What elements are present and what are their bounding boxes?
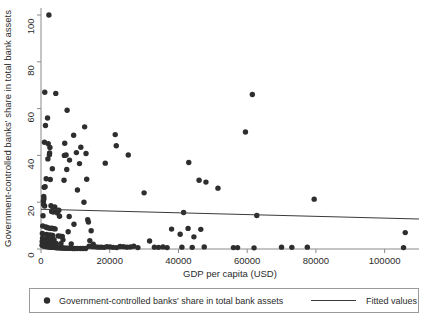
scatter-point [177, 232, 182, 237]
scatter-point [250, 92, 255, 97]
x-tick-label: 60000 [234, 255, 260, 266]
y-tick-label: 20 [25, 206, 36, 217]
scatter-point [61, 178, 66, 183]
scatter-point [66, 214, 71, 219]
scatter-point [185, 226, 190, 231]
scatter-point [103, 160, 108, 165]
scatter-point [403, 230, 408, 235]
x-tick-label: 0 [38, 255, 43, 266]
scatter-point [289, 245, 294, 250]
scatter-point [78, 145, 83, 150]
scatter-point [196, 178, 201, 183]
scatter-point [147, 238, 152, 243]
scatter-point [84, 177, 89, 182]
scatter-point [77, 161, 82, 166]
x-tick-label: 100000 [369, 255, 401, 266]
scatter-point [75, 187, 80, 192]
scatter-point [48, 177, 53, 182]
scatter-point [126, 152, 131, 157]
scatter-point [279, 244, 284, 249]
scatter-point [50, 166, 55, 171]
scatter-point [47, 145, 52, 150]
scatter-point [179, 244, 184, 249]
scatter-point [164, 245, 169, 250]
scatter-point [65, 229, 70, 234]
scatter-point [311, 196, 316, 201]
scatter-point [40, 213, 45, 218]
scatter-point [74, 150, 79, 155]
y-tick-label: 100 [25, 18, 36, 34]
legend-label-fitted: Fitted values [366, 296, 418, 306]
scatter-point [64, 167, 69, 172]
x-tick-label: 40000 [165, 255, 191, 266]
scatter-point [114, 143, 119, 148]
scatter-point [135, 245, 140, 250]
scatter-points-group [39, 12, 408, 251]
scatter-chart: 020406080100 020000400006000080000100000… [0, 0, 425, 316]
legend: Government-controlled banks' share in to… [30, 289, 419, 313]
y-tick-label: 0 [25, 252, 36, 257]
x-axis-title: GDP per capita (USD) [183, 268, 277, 279]
scatter-point [254, 213, 259, 218]
scatter-point [41, 185, 46, 190]
y-tick-label: 60 [25, 112, 36, 123]
scatter-point [45, 115, 50, 120]
scatter-point [401, 245, 406, 250]
x-tick-label: 80000 [303, 255, 329, 266]
fitted-values-line [41, 209, 419, 219]
scatter-point [305, 244, 310, 249]
scatter-point [64, 108, 69, 113]
y-axis-ticks: 020406080100 [25, 15, 41, 258]
scatter-point [198, 227, 203, 232]
scatter-point [251, 245, 256, 250]
scatter-point [186, 160, 191, 165]
scatter-point [141, 190, 146, 195]
x-tick-label: 20000 [97, 255, 123, 266]
scatter-point [57, 214, 62, 219]
legend-label-scatter: Government-controlled banks' share in to… [59, 296, 284, 306]
scatter-point [71, 133, 76, 138]
scatter-point [243, 129, 248, 134]
scatter-point [202, 244, 207, 249]
scatter-point [52, 226, 57, 231]
scatter-point [169, 226, 174, 231]
fitted-line-group [41, 209, 419, 219]
scatter-point [53, 91, 58, 96]
legend-dot-marker [44, 297, 50, 303]
y-tick-label: 40 [25, 159, 36, 170]
scatter-point [43, 123, 48, 128]
scatter-point [45, 156, 50, 161]
scatter-point [88, 228, 93, 233]
y-tick-label: 80 [25, 65, 36, 76]
scatter-point [113, 132, 118, 137]
scatter-point [215, 185, 220, 190]
scatter-point [203, 179, 208, 184]
scatter-point [81, 200, 86, 205]
scatter-point [62, 141, 67, 146]
scatter-point [63, 152, 68, 157]
scatter-point [82, 124, 87, 129]
scatter-point [235, 245, 240, 250]
x-axis-ticks: 020000400006000080000100000 [38, 249, 400, 266]
scatter-point [46, 12, 51, 17]
scatter-point [191, 234, 196, 239]
scatter-point [83, 151, 88, 156]
y-axis-title: Government-controlled banks' share in to… [2, 10, 13, 247]
scatter-point [71, 222, 76, 227]
scatter-point [190, 245, 195, 250]
scatter-point [86, 219, 91, 224]
chart-canvas: 020406080100 020000400006000080000100000… [0, 0, 425, 316]
scatter-point [42, 203, 47, 208]
scatter-point [42, 90, 47, 95]
axes-group [41, 8, 419, 249]
scatter-point [67, 157, 72, 162]
